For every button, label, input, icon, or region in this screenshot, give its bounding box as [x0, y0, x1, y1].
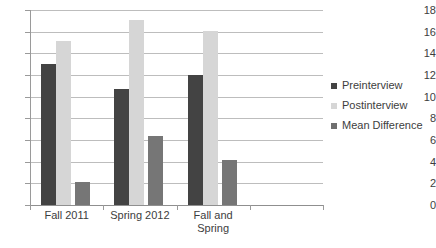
y-tick-label: 12: [410, 70, 436, 81]
legend-swatch-icon: [331, 83, 337, 89]
x-tick-label-line: Fall and: [168, 209, 258, 222]
legend-item[interactable]: Preinterview: [331, 80, 403, 91]
bar-chart: 181614121086420 Fall 2011Spring 2012Fall…: [0, 0, 436, 248]
bar-post: [56, 41, 71, 205]
legend-label: Postinterview: [342, 100, 407, 111]
y-tick-label: 16: [410, 27, 436, 38]
y-tick-label: 2: [410, 178, 436, 189]
x-tick-mark: [30, 205, 31, 210]
bar-diff: [148, 136, 163, 205]
y-tick-label: 0: [410, 200, 436, 211]
legend-item[interactable]: Postinterview: [331, 100, 407, 111]
y-tick-label: 14: [410, 48, 436, 59]
bar-diff: [75, 182, 90, 205]
x-tick-mark: [323, 205, 324, 210]
legend-swatch-icon: [331, 123, 337, 129]
bar-post: [203, 31, 218, 205]
x-tick-mark: [103, 205, 104, 210]
bar-post: [129, 20, 144, 205]
legend-label: Preinterview: [342, 80, 403, 91]
y-tick-label: 6: [410, 135, 436, 146]
bar-pre: [188, 75, 203, 205]
bar-pre: [114, 89, 129, 205]
legend-label: Mean Difference: [342, 120, 423, 131]
plot-area: [30, 10, 323, 205]
x-tick-label-line: Spring: [168, 222, 258, 235]
x-tick-mark: [250, 205, 251, 210]
y-tick-label: 4: [410, 157, 436, 168]
legend-swatch-icon: [331, 103, 337, 109]
y-tick-label: 18: [410, 5, 436, 16]
bar-diff: [222, 160, 237, 206]
legend-item[interactable]: Mean Difference: [331, 120, 423, 131]
x-tick-label: Fall andSpring: [168, 209, 258, 234]
clipped-chart-title: [0, 0, 436, 2]
bar-pre: [41, 64, 56, 205]
y-tick-label: 10: [410, 92, 436, 103]
x-tick-mark: [177, 205, 178, 210]
